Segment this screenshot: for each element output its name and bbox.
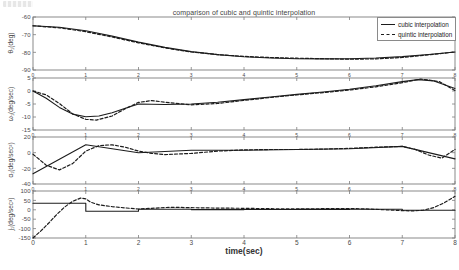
y-tick-label: -150	[18, 235, 31, 241]
x-tick-label: 6	[348, 72, 351, 78]
x-tick-label: 1	[84, 239, 88, 246]
y-tick-label: -60	[22, 14, 31, 20]
x-tick-label: 8	[453, 239, 457, 246]
x-tick-label: 0	[31, 239, 35, 246]
x-tick-label: 5	[295, 239, 299, 246]
subplot-1-box	[33, 78, 455, 130]
cubic-line-swatch	[381, 24, 395, 25]
y-tick-label: -5	[25, 101, 31, 107]
series-quintic-line	[33, 145, 455, 170]
legend-label-cubic: cubic interpolation	[398, 21, 449, 28]
y-tick-label: 5	[27, 75, 31, 81]
y-tick-label: -70	[22, 32, 31, 38]
y-tick-label: 20	[24, 134, 31, 140]
x-tick-label: 6	[348, 239, 352, 246]
ylabel-jerk: j₁(deg/sec³)	[7, 173, 17, 255]
legend-item-quintic: quintic interpolation	[381, 30, 453, 38]
y-tick-label: 0	[27, 88, 31, 94]
legend-box[interactable]: cubic interpolation quintic interpolatio…	[377, 17, 456, 41]
subplot-2-box	[33, 137, 455, 184]
x-tick-label: 3	[190, 72, 193, 78]
series-quintic-line	[33, 196, 455, 238]
x-tick-label: 5	[295, 72, 298, 78]
series-cubic-line	[33, 145, 455, 174]
x-tick-label: 2	[137, 239, 141, 246]
y-tick-label: 0	[27, 207, 31, 213]
x-tick-label: 7	[401, 72, 404, 78]
x-tick-label: 8	[454, 72, 457, 78]
x-tick-label: 4	[243, 72, 246, 78]
legend-label-quintic: quintic interpolation	[398, 31, 452, 38]
x-tick-label: 1	[84, 72, 87, 78]
y-tick-label: 0	[27, 150, 31, 156]
y-tick-label: 50	[24, 198, 31, 204]
legend-item-cubic: cubic interpolation	[381, 20, 453, 28]
figure-window: comparison of cubic and quintic interpol…	[0, 0, 459, 270]
y-tick-label: -15	[22, 127, 31, 133]
y-tick-label: -100	[18, 226, 31, 232]
x-axis-label: time(sec)	[33, 246, 455, 256]
series-cubic-line	[33, 80, 455, 117]
y-tick-label: -50	[22, 216, 31, 222]
y-tick-label: -90	[22, 67, 31, 73]
x-tick-label: 2	[137, 72, 140, 78]
x-tick-label: 3	[189, 239, 193, 246]
x-tick-label: 0	[32, 72, 35, 78]
subplot-3-box	[33, 191, 455, 238]
x-tick-label: 4	[242, 239, 246, 246]
y-tick-label: -10	[22, 114, 31, 120]
y-tick-label: 100	[20, 188, 31, 194]
quintic-line-swatch	[381, 34, 395, 35]
y-tick-label: -80	[22, 50, 31, 56]
y-tick-label: -20	[22, 166, 31, 172]
y-tick-label: -40	[22, 181, 31, 187]
x-tick-label: 7	[400, 239, 404, 246]
